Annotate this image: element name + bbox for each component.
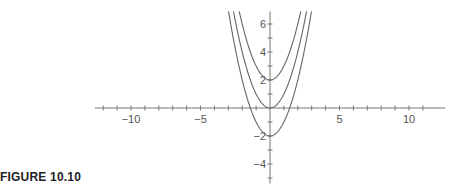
x-tick-label: −5 xyxy=(194,113,207,125)
x-tick-label: 10 xyxy=(403,113,415,125)
y-tick-label: 6 xyxy=(260,18,266,30)
x-tick-label: −10 xyxy=(122,113,141,125)
figure-caption: FIGURE 10.10 xyxy=(0,170,81,184)
x-tick-label: 5 xyxy=(336,113,342,125)
y-tick-label: −2 xyxy=(253,130,266,142)
y-tick-label: 4 xyxy=(260,46,266,58)
y-tick-label: −4 xyxy=(253,158,266,170)
chart-plot: −10−5510−4−2246 xyxy=(0,0,464,191)
